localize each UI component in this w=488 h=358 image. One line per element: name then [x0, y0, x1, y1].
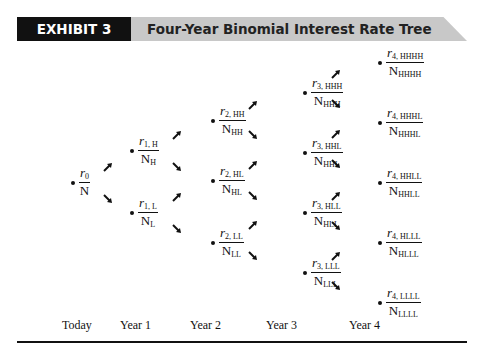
node-fraction: r1, HNH: [138, 134, 159, 167]
notional-label: NL: [141, 213, 155, 229]
node-dot-icon: [71, 181, 75, 185]
notional-label: NHH: [222, 121, 243, 137]
notional-label: NLL: [222, 243, 241, 259]
tree-node-year4-0: r4, HHHHNHHHH: [378, 46, 424, 79]
node-fraction: r1, LNL: [138, 196, 158, 229]
arrow-down-right-icon: [248, 187, 258, 197]
arrow-down-right-icon: [248, 247, 258, 257]
arrow-down-right-icon: [331, 217, 341, 227]
node-fraction: r2, HHNHH: [219, 104, 246, 137]
exhibit-title: Four-Year Binomial Interest Rate Tree: [131, 17, 467, 41]
rate-label: r2, HH: [219, 104, 246, 121]
notional-label: NHHLL: [389, 183, 420, 199]
arrow-up-right-icon: [331, 187, 341, 197]
tree-node-year1-0: r1, HNH: [130, 134, 159, 167]
tree-node-today: r0N: [71, 166, 90, 199]
tree-node-year4-2: r4, HHLLNHHLL: [378, 166, 422, 199]
exhibit-label: EXHIBIT 3: [17, 17, 131, 41]
rate-label: r2, HL: [219, 164, 245, 181]
node-dot-icon: [378, 301, 382, 305]
arrow-up-right-icon: [172, 188, 182, 198]
node-fraction: r2, LLNLL: [219, 226, 244, 259]
axis-label-year2: Year 2: [190, 318, 221, 333]
notional-label: NHLLL: [389, 243, 419, 259]
axis-label-year1: Year 1: [120, 318, 151, 333]
notional-label: NHL: [222, 181, 242, 197]
node-dot-icon: [211, 179, 215, 183]
notional-label: N: [80, 183, 89, 199]
rate-label: r4, LLLL: [386, 286, 421, 303]
arrow-down-right-icon: [331, 155, 341, 165]
node-fraction: r4, LLLLNLLLL: [386, 286, 421, 319]
arrow-down-right-icon: [103, 190, 113, 200]
node-dot-icon: [378, 121, 382, 125]
tree-node-year2-0: r2, HHNHH: [211, 104, 246, 137]
arrow-down-right-icon: [172, 158, 182, 168]
node-dot-icon: [303, 91, 307, 95]
arrow-up-right-icon: [331, 65, 341, 75]
arrow-down-right-icon: [172, 220, 182, 230]
tree-node-year2-1: r2, HLNHL: [211, 164, 245, 197]
node-fraction: r4, HLLLNHLLL: [386, 226, 422, 259]
node-dot-icon: [378, 181, 382, 185]
node-fraction: r4, HHLLNHHLL: [386, 166, 422, 199]
node-fraction: r0N: [79, 166, 90, 199]
node-dot-icon: [303, 271, 307, 275]
tree-node-year4-1: r4, HHHLNHHHL: [378, 106, 423, 139]
rate-label: r4, HLLL: [386, 226, 422, 243]
node-dot-icon: [303, 151, 307, 155]
arrow-down-right-icon: [331, 95, 341, 105]
arrow-up-right-icon: [248, 96, 258, 106]
tree-node-year4-3: r4, HLLLNHLLL: [378, 226, 422, 259]
node-dot-icon: [378, 61, 382, 65]
node-dot-icon: [211, 241, 215, 245]
notional-label: NH: [141, 151, 156, 167]
axis-label-year4: Year 4: [349, 318, 380, 333]
notional-label: NHHHL: [389, 123, 421, 139]
node-dot-icon: [303, 211, 307, 215]
node-fraction: r2, HLNHL: [219, 164, 245, 197]
notional-label: NLLLL: [389, 303, 418, 319]
arrow-up-right-icon: [248, 216, 258, 226]
node-dot-icon: [130, 149, 134, 153]
rate-label: r4, HHHL: [386, 106, 423, 123]
tree-node-year1-1: r1, LNL: [130, 196, 158, 229]
rate-label: r0: [79, 166, 90, 183]
node-dot-icon: [211, 119, 215, 123]
axis-label-today: Today: [62, 318, 92, 333]
arrow-up-right-icon: [331, 125, 341, 135]
tree-node-year2-2: r2, LLNLL: [211, 226, 244, 259]
exhibit-header: EXHIBIT 3 Four-Year Binomial Interest Ra…: [17, 17, 467, 41]
arrow-up-right-icon: [331, 247, 341, 257]
node-fraction: r4, HHHHNHHHH: [386, 46, 424, 79]
rate-label: r1, L: [138, 196, 158, 213]
rate-label: r1, H: [138, 134, 159, 151]
node-dot-icon: [378, 241, 382, 245]
tree-node-year4-4: r4, LLLLNLLLL: [378, 286, 421, 319]
bottom-rule: [17, 341, 467, 343]
axis-label-year3: Year 3: [266, 318, 297, 333]
rate-label: r2, LL: [219, 226, 244, 243]
rate-label: r4, HHHH: [386, 46, 424, 63]
node-fraction: r4, HHHLNHHHL: [386, 106, 423, 139]
arrow-down-right-icon: [331, 277, 341, 287]
notional-label: NHHHH: [389, 63, 422, 79]
rate-label: r4, HHLL: [386, 166, 422, 183]
arrow-down-right-icon: [248, 126, 258, 136]
arrow-up-right-icon: [172, 126, 182, 136]
arrow-up-right-icon: [103, 158, 113, 168]
node-dot-icon: [130, 211, 134, 215]
arrow-up-right-icon: [248, 156, 258, 166]
